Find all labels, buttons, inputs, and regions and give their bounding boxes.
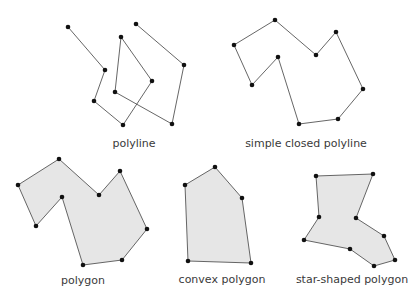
vertex-dot: [393, 258, 398, 263]
vertex-dot: [354, 216, 359, 221]
vertex-dot: [66, 25, 71, 30]
vertex-dot: [186, 259, 191, 264]
simple-closed-polyline-label: simple closed polyline: [245, 137, 367, 150]
vertex-dot: [240, 196, 245, 201]
polyline-figure: [66, 22, 187, 128]
convex-polygon-label: convex polygon: [179, 273, 266, 286]
vertex-dot: [213, 165, 218, 170]
polygon-outline: [18, 159, 147, 265]
vertex-dot: [314, 174, 319, 179]
simple-closed-polyline-outline: [234, 20, 363, 124]
vertex-dot: [297, 122, 302, 127]
polygon-figure: [16, 157, 150, 268]
vertex-dot: [371, 172, 376, 177]
vertex-dot: [134, 22, 139, 27]
star-shaped-polygon-figure: [302, 172, 398, 269]
vertex-dot: [121, 123, 126, 128]
vertex-dot: [92, 99, 97, 104]
vertex-dot: [103, 68, 108, 73]
vertex-dot: [183, 183, 188, 188]
vertex-dot: [314, 53, 319, 58]
vertex-dot: [276, 55, 281, 60]
vertex-dot: [57, 157, 62, 162]
vertex-dot: [317, 215, 322, 220]
vertex-dot: [145, 227, 150, 232]
vertex-dot: [302, 238, 307, 243]
vertex-dot: [273, 18, 278, 23]
vertex-dot: [372, 264, 377, 269]
vertex-dot: [361, 87, 366, 92]
vertex-dot: [182, 63, 187, 68]
simple-closed-polyline-figure: [232, 18, 366, 127]
convex-polygon-outline: [185, 167, 251, 263]
vertex-dot: [113, 90, 118, 95]
vertex-dot: [118, 169, 123, 174]
star-shaped-polygon-outline: [304, 174, 395, 266]
polygon-types-diagram: polyline simple closed polyline polygon …: [0, 0, 417, 301]
vertex-dot: [60, 195, 65, 200]
polyline-label: polyline: [112, 137, 155, 150]
vertex-dot: [382, 234, 387, 239]
convex-polygon-figure: [183, 165, 254, 266]
vertex-dot: [150, 79, 155, 84]
vertex-dot: [334, 30, 339, 35]
vertex-dot: [119, 35, 124, 40]
polygon-label: polygon: [61, 274, 105, 287]
star-shaped-polygon-label: star-shaped polygon: [296, 273, 408, 286]
vertex-dot: [81, 263, 86, 268]
polyline-outline: [68, 24, 184, 125]
vertex-dot: [348, 247, 353, 252]
vertex-dot: [250, 83, 255, 88]
vertex-dot: [232, 43, 237, 48]
vertex-dot: [16, 183, 21, 188]
vertex-dot: [34, 224, 39, 229]
vertex-dot: [120, 258, 125, 263]
vertex-dot: [97, 193, 102, 198]
vertex-dot: [170, 122, 175, 127]
vertex-dot: [336, 117, 341, 122]
vertex-dot: [249, 261, 254, 266]
